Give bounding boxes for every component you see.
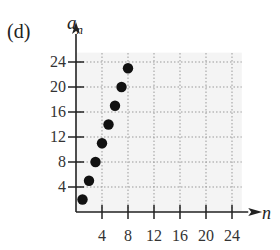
plot-background	[76, 53, 242, 212]
data-point	[77, 194, 87, 204]
scatter-chart: 48121620244812162024	[0, 0, 280, 250]
y-tick-label: 24	[50, 53, 66, 70]
x-tick-label: 24	[224, 227, 240, 244]
x-axis-arrow-icon	[248, 208, 262, 216]
y-tick-label: 8	[58, 153, 66, 170]
x-tick-label: 12	[146, 227, 162, 244]
data-point	[123, 63, 133, 73]
data-point	[116, 82, 126, 92]
x-tick-label: 8	[124, 227, 132, 244]
data-point	[90, 157, 100, 167]
y-axis-arrow-icon	[72, 22, 80, 34]
x-tick-label: 16	[172, 227, 188, 244]
data-point	[84, 176, 94, 186]
y-tick-label: 4	[58, 178, 66, 195]
x-tick-label: 20	[198, 227, 214, 244]
data-point	[103, 119, 113, 129]
y-tick-label: 16	[50, 103, 66, 120]
data-point	[110, 101, 120, 111]
y-tick-label: 12	[50, 128, 66, 145]
data-point	[97, 138, 107, 148]
x-tick-label: 4	[98, 227, 106, 244]
y-tick-label: 20	[50, 78, 66, 95]
